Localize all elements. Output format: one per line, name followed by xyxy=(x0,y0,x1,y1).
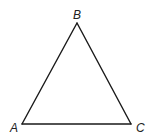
triangle-diagram: B A C xyxy=(0,0,154,139)
vertex-label-b: B xyxy=(73,8,81,22)
edge-ab xyxy=(22,23,77,124)
edge-bc xyxy=(77,23,131,124)
vertex-label-a: A xyxy=(9,121,18,135)
vertex-label-c: C xyxy=(136,121,145,135)
